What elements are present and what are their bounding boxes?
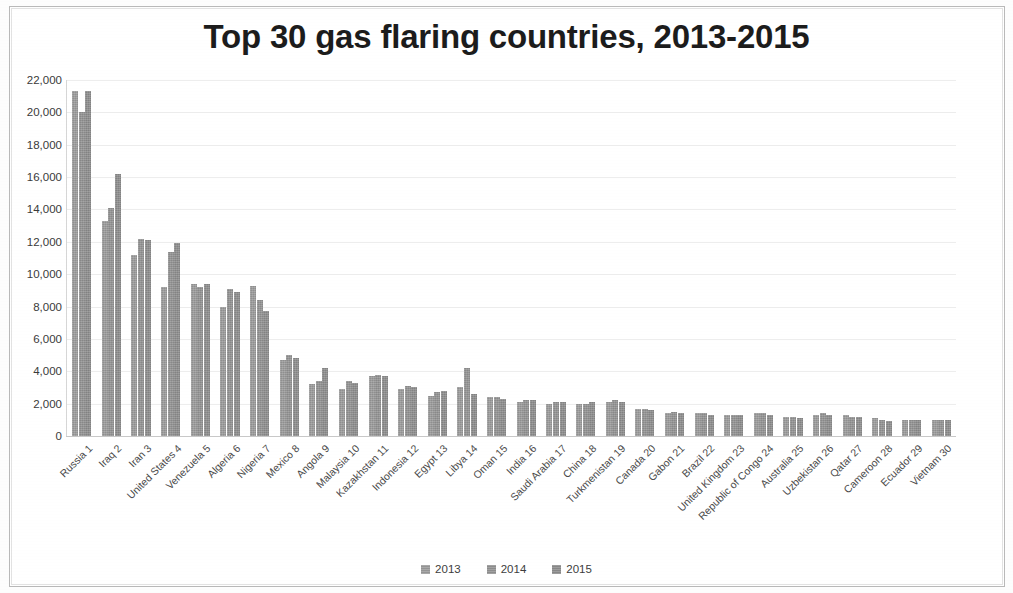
bar bbox=[257, 300, 263, 436]
bar-group bbox=[457, 80, 476, 436]
bar bbox=[530, 400, 536, 436]
bar bbox=[754, 413, 760, 436]
y-axis-tick-label: 0 bbox=[4, 430, 62, 442]
bar bbox=[523, 400, 529, 436]
bar bbox=[487, 397, 493, 436]
bar bbox=[398, 389, 404, 436]
bar bbox=[576, 404, 582, 436]
x-axis-category-label: Iraq 2 bbox=[96, 442, 123, 469]
bar-group bbox=[72, 80, 91, 436]
bar bbox=[635, 409, 641, 437]
bar bbox=[250, 286, 256, 436]
y-axis-tick-label: 6,000 bbox=[4, 333, 62, 345]
x-axis-category-labels: Russia 1Iraq 2Iran 3United States 4Venez… bbox=[67, 440, 956, 545]
bar bbox=[619, 402, 625, 436]
chart-page: Top 30 gas flaring countries, 2013-2015 … bbox=[0, 0, 1013, 593]
bar bbox=[457, 387, 463, 436]
bar bbox=[902, 420, 908, 436]
bar bbox=[286, 355, 292, 436]
legend-label: 2013 bbox=[435, 563, 461, 575]
bar bbox=[665, 413, 671, 436]
bar bbox=[886, 421, 892, 436]
bar-group bbox=[546, 80, 565, 436]
bar bbox=[678, 413, 684, 436]
y-axis-tick-label: 8,000 bbox=[4, 301, 62, 313]
legend-item[interactable]: 2014 bbox=[487, 563, 527, 575]
bar-group bbox=[872, 80, 891, 436]
bar-group bbox=[250, 80, 269, 436]
bar bbox=[293, 358, 299, 436]
bar bbox=[322, 368, 328, 436]
legend-swatch-icon bbox=[487, 565, 496, 574]
y-axis-tick-label: 4,000 bbox=[4, 365, 62, 377]
bar bbox=[797, 418, 803, 436]
legend-label: 2014 bbox=[501, 563, 527, 575]
bar-group bbox=[635, 80, 654, 436]
bar bbox=[583, 404, 589, 436]
bar bbox=[879, 420, 885, 436]
bar bbox=[701, 413, 707, 436]
bar bbox=[938, 420, 944, 436]
x-axis-line bbox=[66, 436, 956, 437]
bar bbox=[339, 389, 345, 436]
bar-group bbox=[369, 80, 388, 436]
bar bbox=[346, 381, 352, 436]
bar-group bbox=[783, 80, 802, 436]
bar bbox=[820, 413, 826, 436]
bar bbox=[849, 417, 855, 436]
bar bbox=[227, 289, 233, 436]
bar-group bbox=[606, 80, 625, 436]
legend-item[interactable]: 2013 bbox=[421, 563, 461, 575]
chart-title: Top 30 gas flaring countries, 2013-2015 bbox=[0, 18, 1013, 56]
bar bbox=[161, 287, 167, 436]
bar bbox=[737, 415, 743, 436]
bar bbox=[79, 112, 85, 436]
bar-group bbox=[280, 80, 299, 436]
bar-group bbox=[724, 80, 743, 436]
bar-group bbox=[131, 80, 150, 436]
legend-item[interactable]: 2015 bbox=[552, 563, 592, 575]
bar bbox=[138, 239, 144, 436]
bar-group bbox=[428, 80, 447, 436]
bar bbox=[263, 311, 269, 436]
bar bbox=[168, 252, 174, 436]
bar-group bbox=[902, 80, 921, 436]
bar-group bbox=[665, 80, 684, 436]
bar bbox=[72, 91, 78, 436]
bar bbox=[767, 415, 773, 436]
bar bbox=[280, 360, 286, 436]
y-axis-tick-label: 10,000 bbox=[4, 268, 62, 280]
bar bbox=[369, 376, 375, 436]
bar-group bbox=[309, 80, 328, 436]
bar bbox=[197, 287, 203, 436]
bar bbox=[872, 418, 878, 436]
bar bbox=[102, 221, 108, 436]
y-axis-tick-label: 22,000 bbox=[4, 74, 62, 86]
bar-group bbox=[161, 80, 180, 436]
bar-group bbox=[517, 80, 536, 436]
bar bbox=[783, 417, 789, 436]
bar bbox=[553, 402, 559, 436]
bar bbox=[500, 399, 506, 436]
bar bbox=[108, 208, 114, 436]
bar bbox=[494, 397, 500, 436]
bar bbox=[204, 284, 210, 436]
bar bbox=[464, 368, 470, 436]
bar bbox=[517, 402, 523, 436]
bar bbox=[411, 387, 417, 436]
bar bbox=[589, 402, 595, 436]
y-axis-tick-label: 18,000 bbox=[4, 139, 62, 151]
y-axis-tick-label: 20,000 bbox=[4, 106, 62, 118]
bar-group bbox=[932, 80, 951, 436]
y-axis-tick-label: 12,000 bbox=[4, 236, 62, 248]
bar bbox=[85, 91, 91, 436]
y-axis-tick-label: 16,000 bbox=[4, 171, 62, 183]
bar bbox=[405, 386, 411, 436]
bar bbox=[352, 383, 358, 436]
legend-swatch-icon bbox=[552, 565, 561, 574]
bar bbox=[648, 410, 654, 436]
bar-group bbox=[576, 80, 595, 436]
bar bbox=[434, 392, 440, 436]
bar-group bbox=[398, 80, 417, 436]
bar bbox=[826, 415, 832, 436]
